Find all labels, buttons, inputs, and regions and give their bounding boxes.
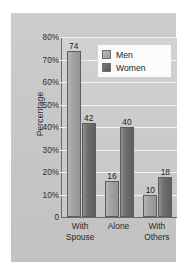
legend-item-men[interactable]: Men xyxy=(102,48,167,61)
y-tick-label: 20% xyxy=(35,168,59,177)
y-axis-tick-labels: 80%70%60%50%40%30%20%10%0 xyxy=(35,37,59,217)
bar-women-with-others[interactable]: 18 xyxy=(158,177,172,218)
y-tick-label: 40% xyxy=(35,123,59,132)
category-label-line: With xyxy=(61,221,99,232)
category-label: Alone xyxy=(99,221,137,232)
legend-swatch-icon xyxy=(102,63,111,72)
bar-men-alone[interactable]: 16 xyxy=(105,181,119,217)
bar-women-with-spouse[interactable]: 42 xyxy=(82,123,96,218)
category-label-line: Spouse xyxy=(61,232,99,243)
bar-men-with-spouse[interactable]: 74 xyxy=(67,51,81,218)
y-tick-label: 0 xyxy=(35,213,59,222)
bar-value-label: 42 xyxy=(84,113,93,123)
legend-label: Men xyxy=(116,50,133,60)
y-tick-label: 30% xyxy=(35,145,59,154)
category-label-line: With xyxy=(138,221,176,232)
bar-women-alone[interactable]: 40 xyxy=(120,127,134,217)
y-tick-label: 70% xyxy=(35,55,59,64)
chart-figure: Percentage 80%70%60%50%40%30%20%10%0 744… xyxy=(0,0,191,278)
category-label: WithSpouse xyxy=(61,221,99,242)
category-label-line: Others xyxy=(138,232,176,243)
category-label-line: Alone xyxy=(99,221,137,232)
x-axis-category-labels: WithSpouseAloneWithOthers xyxy=(61,221,176,255)
bar-value-label: 18 xyxy=(161,167,170,177)
legend-item-women[interactable]: Women xyxy=(102,61,167,74)
y-tick-label: 60% xyxy=(35,78,59,87)
bar-men-with-others[interactable]: 10 xyxy=(143,195,157,218)
bar-group: 7442 xyxy=(62,37,100,217)
y-tick-label: 50% xyxy=(35,100,59,109)
y-tick-label: 80% xyxy=(35,33,59,42)
y-tick-label: 10% xyxy=(35,190,59,199)
bar-value-label: 40 xyxy=(122,117,131,127)
bar-value-label: 16 xyxy=(107,171,116,181)
bar-value-label: 74 xyxy=(69,41,78,51)
category-label: WithOthers xyxy=(138,221,176,242)
bar-value-label: 10 xyxy=(146,185,155,195)
chart-panel: Percentage 80%70%60%50%40%30%20%10%0 744… xyxy=(11,13,176,262)
legend-swatch-icon xyxy=(102,50,111,59)
legend-label: Women xyxy=(116,63,145,73)
chart-legend: MenWomen xyxy=(98,45,171,77)
